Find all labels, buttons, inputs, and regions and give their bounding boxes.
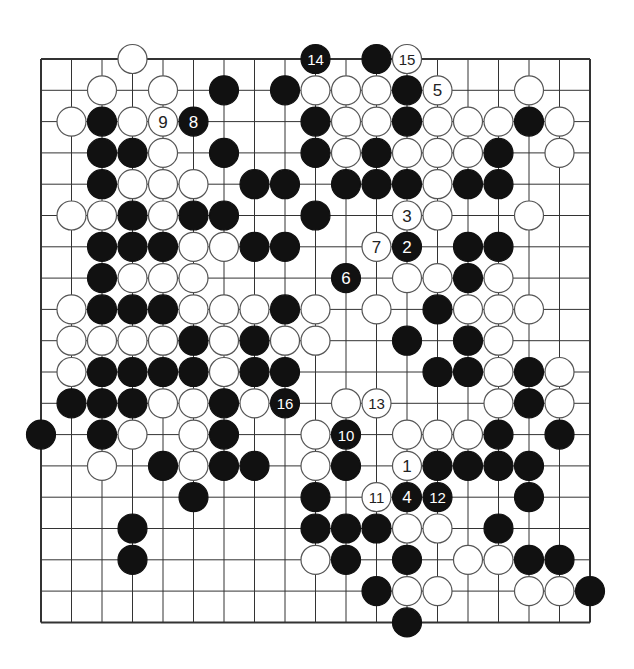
white-stone [515,577,544,606]
white-stone: 3 [393,201,422,230]
black-stone [149,232,178,261]
white-stone [179,420,208,449]
black-stone [118,295,147,324]
black-stone [576,577,605,606]
move-number-label: 9 [158,113,167,132]
white-stone: 5 [423,76,452,105]
white-stone: 1 [393,451,422,480]
white-stone [423,201,452,230]
white-stone [57,326,86,355]
black-stone: 12 [423,483,452,512]
black-stone [179,201,208,230]
white-stone [179,451,208,480]
black-stone [454,232,483,261]
white-stone [423,264,452,293]
black-stone [484,451,513,480]
white-stone [179,295,208,324]
black-stone [118,138,147,167]
black-stone [88,138,117,167]
white-stone [149,326,178,355]
black-stone [301,201,330,230]
white-stone [423,420,452,449]
white-stone [57,107,86,136]
black-stone [210,451,239,480]
white-stone [423,577,452,606]
black-stone [454,170,483,199]
white-stone [301,545,330,574]
black-stone [454,358,483,387]
white-stone [179,389,208,418]
black-stone [332,514,361,543]
white-stone: 9 [149,107,178,136]
black-stone [362,514,391,543]
white-stone [179,170,208,199]
black-stone [454,326,483,355]
black-stone [393,608,422,637]
black-stone [362,45,391,74]
black-stone [210,420,239,449]
black-stone [484,138,513,167]
white-stone [118,170,147,199]
black-stone [515,451,544,480]
move-number-label: 3 [402,207,411,226]
black-stone [210,76,239,105]
white-stone [423,514,452,543]
white-stone [545,358,574,387]
black-stone [271,358,300,387]
black-stone [301,107,330,136]
black-stone [88,107,117,136]
black-stone: 4 [393,483,422,512]
white-stone [88,76,117,105]
black-stone [271,170,300,199]
black-stone [240,170,269,199]
black-stone [393,107,422,136]
white-stone [393,577,422,606]
black-stone [423,358,452,387]
black-stone [515,358,544,387]
black-stone [271,76,300,105]
black-stone [515,483,544,512]
white-stone [118,107,147,136]
black-stone [179,326,208,355]
white-stone [484,326,513,355]
black-stone [393,76,422,105]
black-stone [149,295,178,324]
white-stone [57,295,86,324]
white-stone [88,451,117,480]
white-stone [362,76,391,105]
black-stone [301,138,330,167]
white-stone [484,389,513,418]
black-stone [88,420,117,449]
black-stone [88,389,117,418]
white-stone [454,545,483,574]
black-stone [484,420,513,449]
white-stone [332,389,361,418]
white-stone [393,264,422,293]
white-stone [423,138,452,167]
white-stone [179,232,208,261]
white-stone [118,420,147,449]
white-stone [454,107,483,136]
white-stone [301,295,330,324]
black-stone [515,389,544,418]
black-stone [271,232,300,261]
white-stone [454,295,483,324]
move-number-label: 11 [369,489,385,506]
black-stone: 16 [271,389,300,418]
white-stone [393,420,422,449]
black-stone [393,545,422,574]
black-stone [515,545,544,574]
black-stone [88,264,117,293]
move-number-label: 6 [341,269,350,288]
black-stone: 14 [301,45,330,74]
white-stone [210,358,239,387]
black-stone [393,326,422,355]
white-stone [149,170,178,199]
black-stone [484,170,513,199]
move-number-label: 1 [402,457,411,476]
black-stone [149,451,178,480]
black-stone [88,232,117,261]
black-stone [118,389,147,418]
white-stone [271,326,300,355]
white-stone [484,264,513,293]
